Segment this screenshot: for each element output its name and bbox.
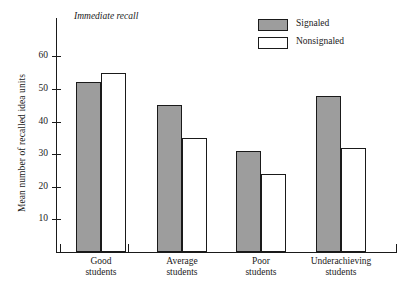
y-axis-tick [52,187,61,188]
y-axis-tick-label: 30 [22,148,48,158]
y-axis-tick-label: 10 [22,213,48,223]
bar-chart-figure: Mean number of recalled idea units Immed… [0,0,401,287]
x-axis-tick [60,244,61,253]
bar-nonsignaled [341,148,366,252]
y-axis-tick [52,89,61,90]
y-axis-tick [52,56,61,57]
y-axis-tick-label: 50 [22,83,48,93]
y-axis-tick-label: 40 [22,116,48,126]
x-axis-line [56,252,396,253]
nonsignaled-swatch [258,37,288,49]
group-label-line2: students [291,267,391,278]
x-axis-tick [128,244,129,253]
y-axis-tick [52,154,61,155]
cropped-header-remnant [150,0,270,4]
bar-nonsignaled [101,73,126,252]
bar-nonsignaled [261,174,286,252]
y-axis-tick-label: 60 [22,50,48,60]
group-label-line1: Poor [252,256,270,266]
group-label-line1: Good [90,256,111,266]
y-axis-tick [52,122,61,123]
signaled-swatch [258,19,288,31]
legend-label-signaled: Signaled [296,18,329,28]
group-label-line1: Underachieving [311,256,372,266]
y-axis-tick-label: 20 [22,181,48,191]
bar-signaled [316,96,341,252]
x-axis-group-label: Underachievingstudents [291,256,391,278]
plot-title: Immediate recall [74,11,138,21]
bar-nonsignaled [182,138,207,252]
bar-signaled [76,82,101,252]
group-label-line1: Average [166,256,197,266]
bar-signaled [236,151,261,252]
x-axis-tick [396,244,397,253]
y-axis-line [56,18,57,253]
bar-signaled [157,105,182,252]
y-axis-tick [52,219,61,220]
legend-label-nonsignaled: Nonsignaled [296,36,344,46]
